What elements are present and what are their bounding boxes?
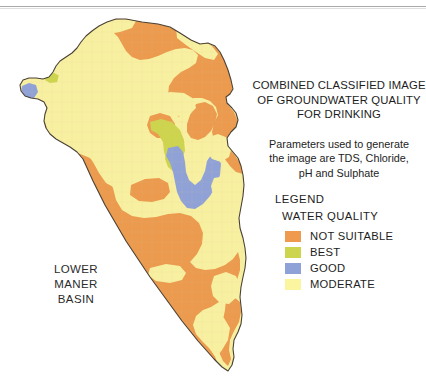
- legend-swatch-best-icon: [285, 247, 301, 258]
- legend-label-moderate: MODERATE: [310, 278, 375, 290]
- legend-subheading: WATER QUALITY: [282, 210, 426, 222]
- parameters-note: Parameters used to generate the image ar…: [252, 137, 426, 181]
- map-class-layers: [0, 0, 270, 385]
- legend-label-not-suitable: NOT SUITABLE: [310, 230, 393, 242]
- figure-title-line-3: FOR DRINKING: [252, 107, 426, 122]
- legend-item-moderate: MODERATE: [285, 276, 426, 292]
- figure-title-line-1: COMBINED CLASSIFIED IMAGE: [252, 78, 426, 93]
- parameters-note-line-3: pH and Sulphate: [252, 166, 426, 181]
- parameters-note-line-2: the image are TDS, Chloride,: [252, 151, 426, 166]
- legend-item-not-suitable: NOT SUITABLE: [285, 228, 426, 244]
- parameters-note-line-1: Parameters used to generate: [252, 137, 426, 152]
- basin-name-label: LOWER MANER BASIN: [28, 262, 124, 307]
- legend-heading: LEGEND: [275, 193, 426, 205]
- map-svg: [0, 0, 270, 385]
- legend-label-best: BEST: [310, 246, 340, 258]
- figure-title: COMBINED CLASSIFIED IMAGE OF GROUNDWATER…: [252, 78, 426, 122]
- legend: LEGEND WATER QUALITY NOT SUITABLE BEST G…: [271, 193, 426, 292]
- figure-root: LOWER MANER BASIN COMBINED CLASSIFIED IM…: [0, 0, 426, 385]
- figure-title-line-2: OF GROUNDWATER QUALITY: [252, 93, 426, 108]
- legend-swatch-good-icon: [285, 263, 301, 274]
- legend-item-best: BEST: [285, 244, 426, 260]
- legend-item-good: GOOD: [285, 260, 426, 276]
- legend-item-list: NOT SUITABLE BEST GOOD MODERATE: [285, 228, 426, 292]
- legend-swatch-not-suitable-icon: [285, 231, 301, 242]
- legend-label-good: GOOD: [310, 262, 345, 274]
- side-text-column: COMBINED CLASSIFIED IMAGE OF GROUNDWATER…: [252, 78, 426, 180]
- groundwater-quality-map: LOWER MANER BASIN: [0, 0, 270, 385]
- legend-swatch-moderate-icon: [285, 279, 301, 290]
